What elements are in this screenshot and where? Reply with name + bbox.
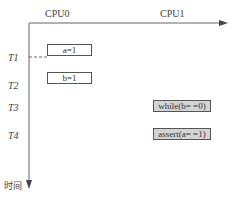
time-mark-t4: T4: [8, 130, 19, 141]
cpu1-header: CPU1: [160, 8, 184, 19]
time-axis-label: 时间: [4, 179, 22, 192]
cpu1-op-while-loop: while(b= =0): [153, 100, 211, 112]
cpu0-op-a-assign: a=1: [47, 44, 92, 56]
time-mark-t2: T2: [8, 80, 19, 91]
cpu-axis-arrow-icon: [219, 20, 228, 26]
cpu0-op-b-assign: b=1: [47, 72, 92, 84]
time-mark-t1: T1: [8, 52, 19, 63]
cpu1-op-assert: assert(a= =1): [153, 128, 211, 140]
time-axis-arrow-icon: [26, 180, 32, 189]
time-mark-t3: T3: [8, 102, 19, 113]
cpu0-header: CPU0: [45, 8, 69, 19]
